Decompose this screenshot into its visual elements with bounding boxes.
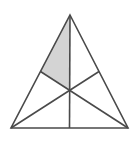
triangle-medians-diagram (0, 0, 138, 150)
median-apex-to-bottom-midpoint (70, 15, 71, 128)
geometry-figure-container (0, 0, 138, 150)
